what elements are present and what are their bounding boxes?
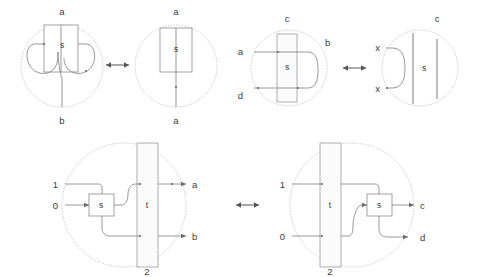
row-2-relation-arrow (343, 65, 366, 70)
row-3-relation-arrow (236, 202, 259, 207)
panel-1-left-node-right (85, 70, 87, 72)
panel-3-right-arrowhead-c (409, 203, 414, 208)
panel-3-right-wire-d (379, 216, 408, 237)
panel-1-left-label-a-top: a (59, 6, 65, 17)
panel-3-right-arrowhead-d (403, 235, 408, 240)
panel-2-right-label-x-upper: x (375, 42, 380, 53)
panel-1-right: s a a (135, 6, 217, 126)
panel-3-right-wire-t-out-lower (341, 205, 367, 236)
panel-3-left-wire-1 (65, 184, 102, 194)
panel-1-left-label-b-bottom: b (59, 115, 64, 126)
panel-3-left-wire-s-out-upper (114, 184, 140, 205)
panel-1-right-node (175, 86, 177, 88)
panel-2-left-node-lower (257, 87, 259, 89)
panel-2-right-label-x-lower: x (375, 83, 380, 94)
panel-3-left-label-1: 1 (53, 179, 58, 190)
panel-3-left-node-lower (139, 235, 141, 237)
panel-3-right-wire-t-out-upper (341, 184, 379, 194)
panel-3-right-box-label: s (377, 200, 381, 210)
panel-1-right-label-a-bottom: a (173, 115, 179, 126)
panel-2-right: s c x x (375, 13, 458, 106)
diagram-canvas: s a b s a a s c a d b (0, 0, 482, 277)
panel-3-left-box-label: s (99, 200, 103, 210)
panel-1-left-box-label: s (60, 40, 64, 50)
panel-3-right-label-2: 2 (327, 266, 332, 277)
panel-3-right-label-c: c (420, 200, 425, 211)
panel-2-right-wire-left-cup (386, 48, 405, 88)
panel-3-left-label-a: a (192, 179, 198, 190)
panel-2-left-node-cap (297, 87, 299, 89)
panel-2-right-box-label: s (422, 63, 426, 73)
panel-3-right-arrowhead-s-in (362, 203, 367, 208)
row-3-arrow-head-left (236, 202, 241, 207)
panel-2-right-label-c: c (435, 13, 440, 24)
panel-1-left-node-left (43, 43, 45, 45)
row-3-arrow-head-right (254, 202, 259, 207)
panel-3-left-node-upper (139, 183, 141, 185)
panel-3-right-label-1: 1 (280, 179, 285, 190)
panel-3-right-label-d: d (420, 232, 425, 243)
row-1-arrow-head-left (106, 62, 111, 67)
panel-1-right-label-a-top: a (173, 6, 179, 17)
panel-3-right-node-lower (321, 235, 323, 237)
panel-1-right-box-label: s (174, 44, 178, 54)
panel-1-left: s a b (21, 6, 103, 126)
row-2-arrow-head-right (361, 65, 366, 70)
panel-2-left-label-d: d (238, 90, 243, 101)
panel-3-left-arrowhead-a (181, 182, 186, 187)
panel-3-right-label-0: 0 (280, 231, 285, 242)
row-1-relation-arrow (106, 62, 129, 67)
panel-2-right-node-lower (386, 87, 388, 89)
panel-3-left-label-0: 0 (53, 200, 58, 211)
panel-3-left-wire-s-out-lower (102, 216, 140, 236)
panel-3-right-node-upper (321, 183, 323, 185)
panel-2-left-label-a: a (238, 46, 244, 57)
panel-2-left-label-c: c (285, 13, 290, 24)
panel-3-left-label-b: b (192, 231, 197, 242)
panel-3-left-label-2: 2 (144, 266, 149, 277)
panel-2-left: s c a d b (238, 13, 331, 106)
row-1-arrow-head-right (124, 62, 129, 67)
panel-2-left-node-upper (277, 51, 279, 53)
panel-3-left-arrowhead-s-in (84, 203, 89, 208)
panel-3-right: s t 1 0 c d 2 (280, 143, 426, 277)
panel-2-left-box-label: s (285, 62, 289, 72)
panel-2-left-label-b: b (325, 37, 330, 48)
string-diagram-figure: s a b s a a s c a d b (0, 0, 482, 277)
panel-3-left-arrowhead-b (181, 234, 186, 239)
panel-3-left: s t 1 0 a b 2 (53, 143, 198, 277)
row-2-arrow-head-left (343, 65, 348, 70)
panel-2-left-wire-right-cap (300, 52, 318, 88)
panel-3-left-node-a (171, 183, 173, 185)
panel-2-right-region-boundary (382, 30, 458, 106)
